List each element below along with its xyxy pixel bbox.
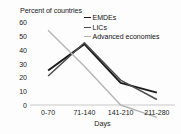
plot-area: 0102030405060 0-7071-140141-210211-280 D…: [30, 22, 175, 105]
y-tick-label: 60: [11, 19, 27, 26]
y-tick-label: 50: [11, 32, 27, 39]
y-tick-label: 40: [11, 46, 27, 53]
y-tick-label: 0: [11, 102, 27, 109]
legend-swatch-emdes: [84, 17, 91, 18]
x-tick-label: 0-70: [41, 109, 55, 116]
series-line-advanced-economies: [48, 30, 157, 117]
y-tick-label: 30: [11, 60, 27, 67]
x-tick-label: 211-280: [144, 109, 169, 116]
series-line-lics: [48, 43, 157, 100]
x-tick-label: 141-210: [108, 109, 134, 116]
y-tick-label: 20: [11, 74, 27, 81]
series-lines: [30, 22, 175, 105]
line-chart: Percent of countries EMDEs LICs Advanced…: [0, 0, 181, 134]
y-tick-label: 10: [11, 88, 27, 95]
y-axis-title: Percent of countries: [20, 6, 82, 15]
x-axis-title: Days: [30, 119, 175, 128]
x-tick-label: 71-140: [73, 109, 95, 116]
